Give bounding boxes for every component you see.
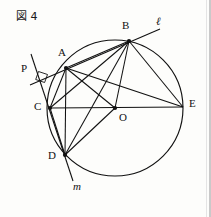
line-ell	[30, 29, 160, 85]
chord-A-D	[65, 68, 66, 155]
page-right-edge	[206, 0, 207, 217]
point-label-C: C	[34, 101, 41, 112]
geometry-diagram	[0, 0, 211, 217]
page-right-border	[209, 0, 211, 217]
figure-container: 図 4 A B C D E O	[0, 0, 211, 217]
chord-A-C	[50, 68, 66, 108]
point-label-O: O	[119, 112, 127, 123]
point-label-D: D	[48, 150, 56, 161]
point-dot-B	[127, 39, 131, 43]
line-label-m: m	[73, 181, 81, 192]
point-label-A: A	[58, 47, 66, 58]
point-label-E: E	[189, 98, 196, 109]
point-dot-A	[64, 66, 68, 70]
point-dot-D	[63, 153, 67, 157]
chord-C-D	[50, 108, 65, 155]
line-m	[31, 54, 73, 181]
chord-B-D	[65, 41, 129, 155]
right-angle-mark	[36, 72, 48, 83]
line-label-ell: ℓ	[156, 16, 161, 27]
point-label-B: B	[122, 20, 129, 31]
point-label-P: P	[21, 63, 27, 74]
chord-B-E	[129, 41, 183, 107]
point-dot-O	[113, 106, 117, 110]
radius-O-D	[65, 108, 115, 155]
point-dot-C	[48, 106, 52, 110]
chord-A-E	[66, 68, 183, 107]
chord-A-B	[66, 41, 129, 68]
